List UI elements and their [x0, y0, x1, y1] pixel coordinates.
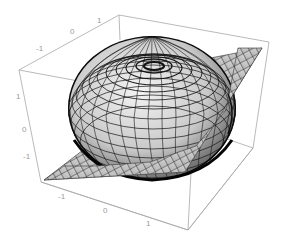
tick-label: 1: [146, 220, 150, 228]
tick-label: 0: [103, 207, 107, 215]
tick-label: -1: [36, 45, 43, 53]
tick-label: -1: [58, 193, 65, 201]
tick-label: 1: [16, 93, 20, 101]
tick-label: 0: [22, 126, 26, 134]
tick-label: 1: [97, 17, 101, 25]
3d-plot: [0, 0, 284, 245]
tick-label: 0: [70, 28, 74, 36]
sphere-surface: [68, 36, 236, 181]
tick-label: -1: [23, 153, 30, 161]
